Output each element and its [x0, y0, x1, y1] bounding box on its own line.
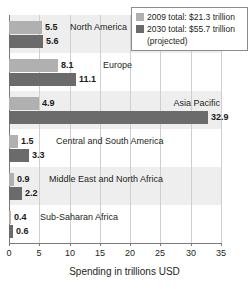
x-tick-mark: [191, 243, 192, 246]
bar-2009-0: [9, 21, 42, 34]
legend-label-2009: 2009 total: $21.3 trillion: [147, 12, 235, 22]
category-label: North America: [70, 22, 127, 33]
x-tick-label: 0: [6, 248, 11, 259]
gridline: [70, 15, 71, 243]
bar-2030-3: [9, 149, 29, 162]
bar-chart-figure: 5.55.68.111.14.932.91.53.30.92.20.40.6No…: [0, 0, 249, 289]
x-tick-label: 15: [95, 248, 105, 259]
bar-2030-5: [9, 225, 13, 238]
bar-value-label: 11.1: [79, 74, 96, 85]
bar-2030-1: [9, 73, 76, 86]
x-tick-mark: [130, 243, 131, 246]
bar-value-label: 0.6: [16, 226, 29, 237]
category-label: Asia Pacific: [173, 98, 220, 109]
bar-2009-4: [9, 173, 14, 186]
bar-value-label: 0.9: [17, 174, 30, 185]
bar-value-label: 5.6: [46, 36, 59, 47]
x-tick-label: 20: [125, 248, 135, 259]
clipped-header-text: [5, 0, 95, 7]
legend-item-2030[interactable]: 2030 total: $55.7 trillion: [136, 24, 244, 34]
category-label: Europe: [103, 60, 132, 71]
bar-value-label: 2.2: [25, 188, 38, 199]
category-label: Central and South America: [56, 136, 164, 147]
x-tick-label: 30: [186, 248, 196, 259]
x-tick-label: 5: [36, 248, 41, 259]
legend-label-2030-sub: (projected): [147, 36, 244, 46]
bar-value-label: 8.1: [61, 60, 74, 71]
x-tick-mark: [70, 243, 71, 246]
bar-2030-2: [9, 111, 208, 124]
x-tick-mark: [221, 243, 222, 246]
bar-2009-1: [9, 59, 58, 72]
legend-swatch-2030-icon: [136, 25, 144, 33]
bar-value-label: 32.9: [211, 112, 229, 123]
chart-legend: 2009 total: $21.3 trillion 2030 total: $…: [131, 7, 248, 51]
bar-value-label: 1.5: [21, 136, 34, 147]
x-axis-title: Spending in trillions USD: [0, 266, 249, 278]
bar-value-label: 4.9: [42, 98, 55, 109]
legend-item-2009[interactable]: 2009 total: $21.3 trillion: [136, 12, 244, 22]
bar-2030-0: [9, 35, 43, 48]
x-tick-label: 10: [65, 248, 75, 259]
bar-value-label: 0.4: [14, 212, 27, 223]
gridline: [100, 15, 101, 243]
x-tick-label: 35: [216, 248, 226, 259]
bar-2030-4: [9, 187, 22, 200]
x-tick-mark: [9, 243, 10, 246]
legend-label-2030: 2030 total: $55.7 trillion: [147, 24, 235, 34]
x-tick-mark: [100, 243, 101, 246]
bar-value-label: 5.5: [45, 22, 58, 33]
gridline: [9, 15, 10, 243]
category-label: Middle East and North Africa: [49, 174, 163, 185]
bar-2009-2: [9, 97, 39, 110]
bar-value-label: 3.3: [32, 150, 45, 161]
bar-2009-3: [9, 135, 18, 148]
gridline: [39, 15, 40, 243]
legend-swatch-2009-icon: [136, 13, 144, 21]
category-label: Sub-Saharan Africa: [40, 212, 118, 223]
x-tick-label: 25: [155, 248, 165, 259]
x-tick-mark: [160, 243, 161, 246]
bar-2009-5: [9, 211, 11, 224]
x-tick-mark: [39, 243, 40, 246]
